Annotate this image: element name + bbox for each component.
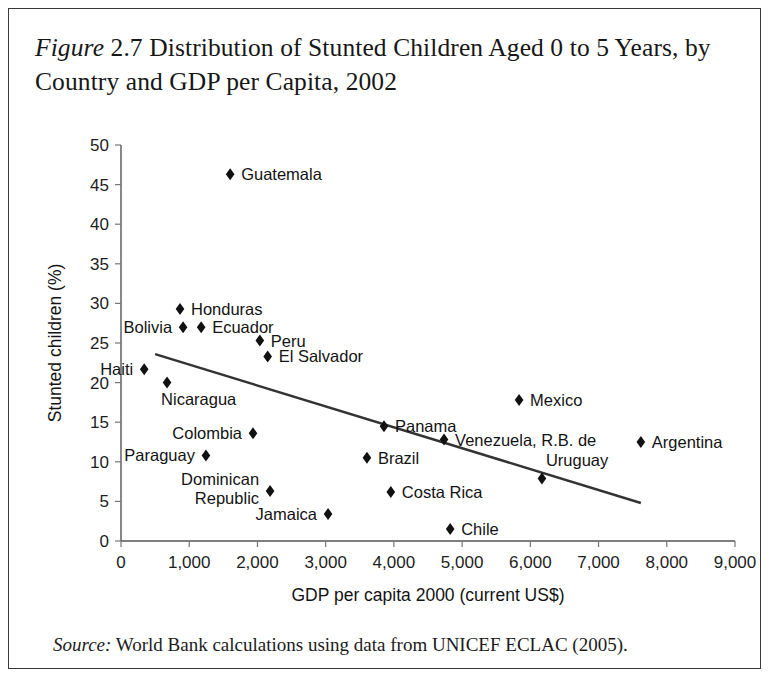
chart-canvas: 0510152025303540455001,0002,0003,0004,00… [9,9,771,609]
y-tick-label: 40 [90,215,109,234]
data-points: GuatemalaHondurasBoliviaEcuadorPeruEl Sa… [100,165,723,538]
point-marker[interactable] [140,363,149,375]
point-label: Honduras [191,300,263,318]
data-point[interactable]: Nicaragua [161,377,237,408]
x-tick-label: 0 [116,553,125,572]
point-marker[interactable] [263,350,272,362]
source-text: World Bank calculations using data from … [116,634,628,655]
data-point[interactable]: Honduras [176,300,263,318]
point-marker[interactable] [386,486,395,498]
data-point[interactable]: Brazil [363,449,420,467]
point-marker[interactable] [363,452,372,464]
data-point[interactable]: Bolivia [123,318,187,336]
source-label: Source: [53,634,111,655]
data-point[interactable]: Venezuela, R.B. de [440,431,597,449]
x-tick-label: 9,000 [714,553,757,572]
point-marker[interactable] [324,508,333,520]
point-label: Republic [195,489,259,507]
point-label: Haiti [100,360,133,378]
point-label: Mexico [530,391,582,409]
point-label: Paraguay [124,446,195,464]
x-tick-label: 2,000 [236,553,279,572]
data-point[interactable]: Uruguay [538,451,609,484]
y-tick-label: 25 [90,334,109,353]
y-tick-label: 50 [90,136,109,155]
point-marker[interactable] [202,449,211,461]
point-label: Brazil [378,449,419,467]
point-label: Chile [461,520,499,538]
data-point[interactable]: Guatemala [226,165,323,183]
x-tick-label: 5,000 [441,553,484,572]
point-marker[interactable] [163,377,172,389]
point-label: Guatemala [241,165,323,183]
point-marker[interactable] [446,523,455,535]
x-tick-label: 3,000 [304,553,347,572]
point-label: Nicaragua [161,390,237,408]
scatter-chart: 0510152025303540455001,0002,0003,0004,00… [9,9,771,609]
y-tick-label: 15 [90,413,109,432]
point-label: Costa Rica [402,483,484,501]
x-tick-label: 7,000 [577,553,620,572]
point-marker[interactable] [179,321,188,333]
point-marker[interactable] [249,427,258,439]
y-axis-title: Stunted children (%) [45,264,65,423]
point-label: Venezuela, R.B. de [455,431,596,449]
axes: 0510152025303540455001,0002,0003,0004,00… [90,136,756,572]
data-point[interactable]: Colombia [172,424,257,442]
y-tick-label: 10 [90,453,109,472]
point-marker[interactable] [266,485,275,497]
data-point[interactable]: Paraguay [124,446,210,464]
y-tick-label: 5 [100,492,109,511]
point-marker[interactable] [637,436,646,448]
point-marker[interactable] [380,420,389,432]
data-point[interactable]: Jamaica [256,505,333,523]
x-tick-label: 6,000 [509,553,552,572]
point-label: Dominican [181,470,259,488]
x-axis-title: GDP per capita 2000 (current US$) [291,585,564,605]
y-tick-label: 45 [90,176,109,195]
point-label: Uruguay [546,451,609,469]
point-marker[interactable] [176,303,185,315]
point-marker[interactable] [256,335,265,347]
point-label: El Salvador [279,347,364,365]
data-point[interactable]: Ecuador [197,318,274,336]
data-point[interactable]: Chile [446,520,499,538]
y-tick-label: 35 [90,255,109,274]
point-marker[interactable] [515,394,524,406]
point-label: Colombia [172,424,243,442]
point-marker[interactable] [197,321,206,333]
point-label: Ecuador [212,318,274,336]
point-label: Panama [395,417,457,435]
data-point[interactable]: El Salvador [263,347,363,365]
x-tick-label: 8,000 [646,553,689,572]
x-tick-label: 4,000 [373,553,416,572]
point-label: Jamaica [256,505,318,523]
x-tick-label: 1,000 [168,553,211,572]
data-point[interactable]: Costa Rica [386,483,483,501]
y-tick-label: 30 [90,294,109,313]
y-tick-label: 0 [100,532,109,551]
data-point[interactable]: DominicanRepublic [181,470,274,507]
figure-frame: Figure 2.7 Distribution of Stunted Child… [8,8,761,669]
point-label: Argentina [652,433,723,451]
point-marker[interactable] [226,168,235,180]
data-point[interactable]: Mexico [515,391,583,409]
data-point[interactable]: Argentina [637,433,724,451]
source-note: Source: World Bank calculations using da… [53,633,743,657]
data-point[interactable]: Haiti [100,360,148,378]
point-label: Bolivia [123,318,172,336]
